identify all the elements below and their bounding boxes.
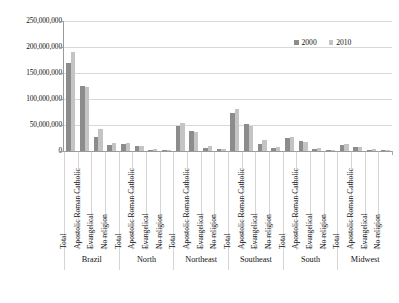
region-label: Northeast xyxy=(173,250,228,270)
legend-label: 2000 xyxy=(302,38,317,47)
category-label-text: Total xyxy=(115,234,123,250)
bar xyxy=(385,150,390,151)
bar-pair xyxy=(201,21,215,151)
bar xyxy=(208,146,213,151)
category-label-group: TotalApostolic Roman CatholicEvangelical… xyxy=(283,152,338,250)
legend-swatch xyxy=(294,40,299,45)
bar-pair xyxy=(269,21,283,151)
y-axis: 250,000,000200,000,000150,000,000100,000… xyxy=(0,0,62,303)
category-label-text: No religion xyxy=(265,214,273,249)
y-axis-tick-label: 250,000,000 xyxy=(4,17,62,25)
bar xyxy=(167,150,172,151)
bar xyxy=(194,132,199,151)
bar xyxy=(235,109,240,151)
bar xyxy=(249,126,254,151)
bar-pair xyxy=(214,21,228,151)
y-axis-tick-label: 100,000,000 xyxy=(4,95,62,103)
category-label-text: Evangelical xyxy=(306,213,314,249)
bar-pair xyxy=(91,21,105,151)
y-axis-tick-label: 50,000,000 xyxy=(4,121,62,129)
category-label-text: Apostolic Roman Catholic xyxy=(74,168,82,249)
bar xyxy=(276,147,281,151)
legend-item: 2000 xyxy=(294,38,317,47)
category-label-text: No religion xyxy=(101,214,109,249)
category-label-group: TotalApostolic Roman CatholicEvangelical… xyxy=(228,152,283,250)
bar-group xyxy=(119,21,174,151)
category-label-text: Evangelical xyxy=(197,213,205,249)
bar xyxy=(139,146,144,151)
bar xyxy=(221,149,226,151)
category-label-text: Apostolic Roman Catholic xyxy=(128,168,136,249)
bar-pair xyxy=(119,21,133,151)
bar xyxy=(180,123,185,151)
bar xyxy=(98,129,103,151)
category-label-text: Evangelical xyxy=(87,213,95,249)
bar-pair xyxy=(173,21,187,151)
y-axis-tick-label: 0 xyxy=(4,147,62,155)
bar-pair xyxy=(187,21,201,151)
bar-group xyxy=(173,21,228,151)
region-label: Southeast xyxy=(228,250,283,270)
category-label-text: Total xyxy=(279,234,287,250)
bar xyxy=(358,147,363,151)
bar-pair xyxy=(242,21,256,151)
bar-group xyxy=(228,21,283,151)
category-label-text: Apostolic Roman Catholic xyxy=(183,168,191,249)
category-label-text: No religion xyxy=(156,214,164,249)
bar xyxy=(317,148,322,151)
category-label-text: Total xyxy=(60,234,68,250)
region-labels: BrazilNorthNortheastSoutheastSouthMidwes… xyxy=(64,250,392,270)
bar xyxy=(112,143,117,151)
bar-pair xyxy=(105,21,119,151)
category-label-text: Apostolic Roman Catholic xyxy=(238,168,246,249)
bar-pair xyxy=(228,21,242,151)
bar-chart: 250,000,000200,000,000150,000,000100,000… xyxy=(0,0,399,303)
category-label-text: No religion xyxy=(374,214,382,249)
bar xyxy=(153,149,158,151)
legend-swatch xyxy=(329,40,334,45)
bar-pair xyxy=(132,21,146,151)
bar-pair xyxy=(146,21,160,151)
category-label-text: Total xyxy=(333,234,341,250)
region-label: Midwest xyxy=(337,250,392,270)
y-axis-tick-label: 150,000,000 xyxy=(4,69,62,77)
bar xyxy=(303,142,308,151)
bar-pair xyxy=(160,21,174,151)
category-label-text: Evangelical xyxy=(251,213,259,249)
region-label: North xyxy=(119,250,174,270)
x-axis-tick xyxy=(392,151,393,155)
category-label-text: Evangelical xyxy=(361,213,369,249)
category-label: No religion xyxy=(378,152,392,250)
category-label-text: Total xyxy=(224,234,232,250)
bar xyxy=(372,149,377,151)
bar xyxy=(344,144,349,151)
legend-label: 2010 xyxy=(336,38,351,47)
bar-pair xyxy=(78,21,92,151)
bar-pair xyxy=(365,21,379,151)
bar xyxy=(331,150,336,151)
bar xyxy=(262,140,267,151)
category-label-group: TotalApostolic Roman CatholicEvangelical… xyxy=(119,152,174,250)
category-label-text: No religion xyxy=(210,214,218,249)
category-label-group: TotalApostolic Roman CatholicEvangelical… xyxy=(173,152,228,250)
category-label-text: Apostolic Roman Catholic xyxy=(292,168,300,249)
bar-pair xyxy=(378,21,392,151)
region-label: South xyxy=(283,250,338,270)
bar xyxy=(85,87,90,151)
region-label: Brazil xyxy=(64,250,119,270)
bar xyxy=(290,137,295,151)
bar xyxy=(71,52,76,151)
category-labels: TotalApostolic Roman CatholicEvangelical… xyxy=(64,152,392,250)
bar-pair xyxy=(255,21,269,151)
category-label-text: No religion xyxy=(320,214,328,249)
category-label-text: Evangelical xyxy=(142,213,150,249)
y-axis-tick-label: 200,000,000 xyxy=(4,43,62,51)
category-label-text: Total xyxy=(169,234,177,250)
bar-pair xyxy=(351,21,365,151)
bar-group xyxy=(64,21,119,151)
category-label-group: TotalApostolic Roman CatholicEvangelical… xyxy=(337,152,392,250)
bar xyxy=(126,143,131,151)
bar-pair xyxy=(64,21,78,151)
category-label-group: TotalApostolic Roman CatholicEvangelical… xyxy=(64,152,119,250)
legend-item: 2010 xyxy=(329,38,352,47)
